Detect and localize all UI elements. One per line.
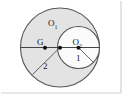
label-o1-subscript: 1 [55, 24, 58, 30]
geometry-diagram: G O1 O2 2 1 [0, 0, 125, 97]
point-tangent-center [58, 46, 62, 50]
figure-canvas: G O1 O2 2 1 [0, 0, 125, 97]
point-g [43, 46, 47, 50]
label-radius-one: 1 [76, 53, 81, 63]
label-g: G [37, 37, 44, 47]
label-radius-two: 2 [43, 61, 48, 71]
label-o2-subscript: 2 [79, 43, 82, 49]
